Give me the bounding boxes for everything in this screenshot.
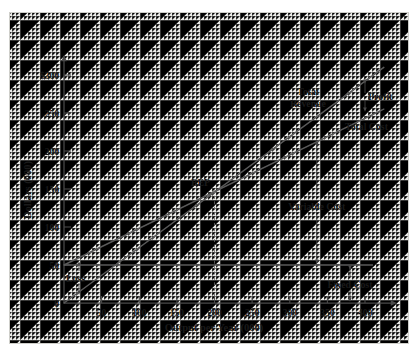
total-revenue-label-line2: Revenue — [290, 98, 327, 109]
total-cost-label: Total Cost — [345, 121, 389, 132]
y-axis-title: Dollars (000) — [22, 160, 34, 219]
break-even-chart-figure: $300 250 200 150 100 50 0 50 100 150 200… — [0, 0, 420, 355]
y-tick-label-100: 100 — [45, 223, 60, 233]
y-tick-label-250: 250 — [45, 109, 60, 119]
loss-label: Loss — [66, 273, 85, 284]
y-tick-label-150: 150 — [45, 185, 60, 195]
x-tick-label-350: 350 — [320, 308, 335, 318]
x-tick-label-50: 50 — [97, 308, 107, 318]
y-tick-label-200: 200 — [45, 147, 60, 157]
y-tick-label-300: $300 — [40, 71, 59, 81]
x-axis-title: Output per Year (000) — [165, 322, 264, 334]
variable-cost-label: Variable Cost — [288, 201, 346, 212]
x-tick-label-200: 200 — [207, 308, 222, 318]
bep-label: BEP — [191, 177, 210, 188]
x-tick-label-300: 300 — [283, 308, 298, 318]
x-tick-label-250: 250 — [245, 308, 260, 318]
fixed-cost-label: Fixed Cost — [328, 279, 374, 290]
y-tick-label-50: 50 — [50, 261, 60, 271]
y-tick-label-0: 0 — [54, 299, 59, 309]
x-tick-label-400: 400 — [358, 308, 373, 318]
x-tick-label-150: 150 — [170, 308, 185, 318]
total-revenue-label-line1: Total — [297, 86, 319, 97]
profit-label: Profit — [368, 91, 393, 102]
x-tick-label-100: 100 — [132, 308, 147, 318]
